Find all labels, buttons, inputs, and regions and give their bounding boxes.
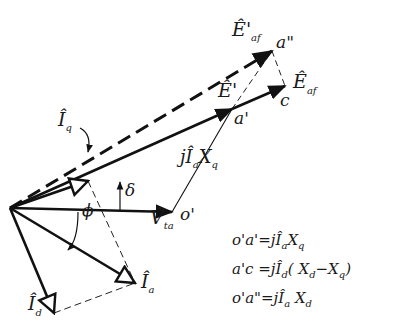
label-o-prime: o' — [180, 204, 195, 224]
label-Vta: V̂ta — [150, 206, 174, 231]
phasor-Eaf-prime — [10, 51, 272, 208]
label-Id: Îd — [27, 292, 42, 318]
label-jIaXq: jÎaXq — [176, 145, 218, 170]
label-Eaf: Êaf — [292, 70, 319, 96]
label-Eaf-prime: Ê'af — [231, 18, 263, 43]
dashed-a-dd-c — [272, 51, 285, 86]
label-a-prime: a' — [234, 108, 249, 128]
label-delta: δ — [125, 180, 135, 200]
Iq-pointer — [80, 128, 89, 152]
equation-1: o'a'=jÎaXq — [232, 231, 304, 251]
label-phi: ϕ — [82, 200, 94, 220]
label-Iq: Îq — [57, 108, 72, 133]
phasor-diagram: Ê'af a" Êaf Ê' c a' Îq δ jÎaXq o' V̂ta ϕ… — [0, 0, 413, 326]
phasor-Ia — [10, 208, 135, 283]
equation-3: o'a"=jÎa Xd — [232, 289, 312, 309]
dashed-Id-Ia — [54, 283, 135, 313]
label-E-prime: Ê' — [217, 79, 237, 101]
equation-2: a'c =jÎd( Xd−Xq) — [232, 260, 351, 280]
label-a-double-prime: a" — [276, 32, 294, 52]
label-Ia: Îa — [140, 270, 155, 295]
label-c: c — [280, 90, 290, 110]
